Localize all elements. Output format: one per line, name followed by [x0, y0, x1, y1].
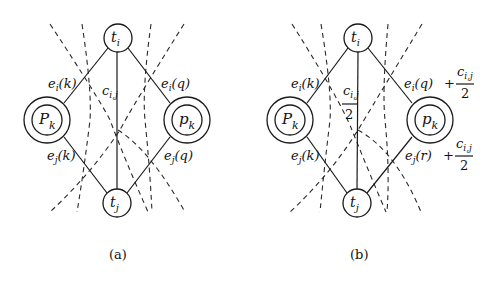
label-ej-q-a: ej(q) [164, 148, 193, 165]
svg-text:2: 2 [460, 158, 468, 173]
svg-text:ei(q): ei(q) [404, 76, 433, 93]
svg-text:+: + [443, 148, 454, 163]
label-ej-k-a: ej(k) [47, 148, 76, 165]
edge-ti-tj-b [357, 52, 358, 189]
dashed-boundary-a3 [144, 24, 152, 212]
svg-text:ci,j: ci,j [457, 64, 473, 81]
edge-tj-right [127, 137, 170, 193]
label-ei-k-a: ei(k) [48, 76, 77, 93]
svg-text:ci,j: ci,j [343, 83, 359, 100]
dashed-boundary-a2 [77, 24, 90, 212]
caption-a: (a) [109, 247, 127, 262]
dashed-boundary-b2 [320, 24, 330, 212]
panel-a: ti tj Pk pk ei(k) ej(k) ei(q) ej(q) ci,j… [24, 24, 210, 262]
label-ei-q-plus-b: ei(q) + ci,j 2 [404, 64, 474, 101]
svg-text:ej(r): ej(r) [405, 148, 432, 165]
label-ej-k-b: ej(k) [291, 148, 320, 165]
figure-canvas: ti tj Pk pk ei(k) ej(k) ei(q) ej(q) ci,j… [0, 0, 485, 282]
panel-b: ti tj Pk pk ei(k) ej(k) ci,j 2 ei(q) + c… [267, 24, 474, 262]
svg-text:ci,j: ci,j [456, 136, 472, 153]
edge-tj-left [64, 137, 107, 193]
svg-text:2: 2 [461, 86, 469, 101]
svg-text:+: + [444, 76, 455, 91]
edge-tj-right-b [367, 137, 412, 193]
label-ei-q-a: ei(q) [161, 76, 190, 93]
svg-text:2: 2 [345, 107, 353, 122]
label-cij-half-b: ci,j 2 [342, 83, 359, 122]
dashed-boundary-b3 [384, 24, 388, 212]
label-ei-k-b: ei(k) [291, 76, 320, 93]
label-cij-a: ci,j [102, 83, 118, 100]
caption-b: (b) [350, 247, 368, 262]
